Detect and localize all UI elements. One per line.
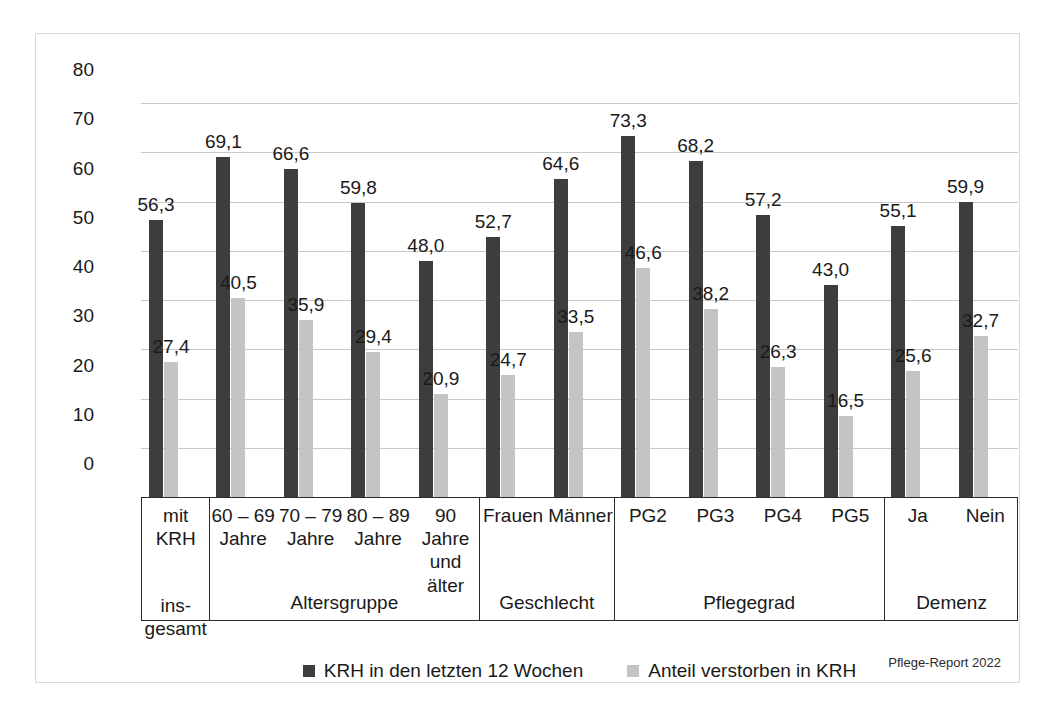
bar-value-label: 52,7 — [463, 212, 523, 231]
bar-value-label: 33,5 — [546, 307, 606, 326]
y-axis-tick-label: 50 — [38, 208, 94, 227]
bar-group: 68,238,2 — [681, 103, 748, 497]
bar-verstorben — [636, 268, 650, 498]
bar-group: 73,346,6 — [613, 103, 680, 497]
chart-legend: KRH in den letzten 12 WochenAnteil verst… — [141, 656, 1018, 686]
legend-label: KRH in den letzten 12 Wochen — [324, 660, 583, 682]
bar-value-label: 24,7 — [478, 350, 538, 369]
bar-group: 55,125,6 — [883, 103, 950, 497]
y-axis-tick-label: 40 — [38, 257, 94, 276]
bar-value-label: 35,9 — [276, 295, 336, 314]
bar-verstorben — [164, 362, 178, 497]
bar-verstorben — [906, 371, 920, 497]
y-axis-tick-label: 70 — [38, 109, 94, 128]
bar-value-label: 32,7 — [951, 311, 1011, 330]
bar-value-label: 59,8 — [328, 178, 388, 197]
bar-value-label: 73,3 — [598, 111, 658, 130]
x-axis-group-label: Geschlecht — [479, 591, 614, 614]
bar-verstorben — [501, 375, 515, 497]
bar-group: 56,327,4 — [141, 103, 208, 497]
bar-group: 57,226,3 — [748, 103, 815, 497]
bar-krh — [351, 203, 365, 498]
bar-group: 48,020,9 — [411, 103, 478, 497]
bar-verstorben — [299, 320, 313, 497]
y-axis-tick-label: 30 — [38, 306, 94, 325]
legend-label: Anteil verstorben in KRH — [648, 660, 856, 682]
bar-verstorben — [704, 309, 718, 497]
bar-verstorben — [839, 416, 853, 497]
x-axis-category-label: Ja — [884, 504, 951, 527]
bar-verstorben — [366, 352, 380, 497]
bar-krh — [689, 161, 703, 497]
y-axis-tick-label: 10 — [38, 405, 94, 424]
bar-value-label: 25,6 — [883, 346, 943, 365]
bar-verstorben — [974, 336, 988, 497]
x-axis-category-label: PG5 — [817, 504, 884, 527]
bar-value-label: 20,9 — [411, 369, 471, 388]
bar-value-label: 57,2 — [733, 190, 793, 209]
x-axis-group-label: ins-gesamt — [142, 594, 209, 640]
bar-krh — [216, 157, 230, 497]
x-axis-group-label: Pflegegrad — [614, 591, 884, 614]
y-axis-tick-label: 0 — [38, 454, 94, 473]
x-axis-category-label: 60 – 69Jahre — [209, 504, 276, 550]
x-axis-category-label: 70 – 79Jahre — [277, 504, 344, 550]
x-axis-category-label: Frauen — [479, 504, 546, 527]
legend-item-krh: KRH in den letzten 12 Wochen — [303, 660, 583, 682]
x-axis-category-label: PG2 — [614, 504, 681, 527]
bar-verstorben — [771, 367, 785, 497]
bar-group: 64,633,5 — [546, 103, 613, 497]
bar-krh — [284, 169, 298, 497]
y-axis-tick-label: 80 — [38, 60, 94, 79]
bars-layer: 56,327,469,140,566,635,959,829,448,020,9… — [141, 103, 1018, 497]
bar-verstorben — [231, 298, 245, 497]
legend-item-verstorben: Anteil verstorben in KRH — [627, 660, 856, 682]
x-axis-group-label: Demenz — [884, 591, 1019, 614]
bar-value-label: 64,6 — [531, 154, 591, 173]
bar-value-label: 16,5 — [816, 391, 876, 410]
x-axis-group-label: Altersgruppe — [209, 591, 479, 614]
legend-swatch-icon — [627, 665, 639, 677]
bar-value-label: 46,6 — [613, 243, 673, 262]
bar-value-label: 27,4 — [141, 337, 201, 356]
bar-krh — [554, 179, 568, 497]
y-axis-tick-label: 20 — [38, 356, 94, 375]
bar-value-label: 55,1 — [868, 201, 928, 220]
x-axis-category-label: Nein — [952, 504, 1019, 527]
bar-group: 43,016,5 — [816, 103, 883, 497]
x-axis-category-label: Männer — [547, 504, 614, 527]
bar-group: 59,829,4 — [343, 103, 410, 497]
x-axis-category-label: 80 – 89Jahre — [344, 504, 411, 550]
bar-value-label: 68,2 — [666, 136, 726, 155]
figure-frame: 01020304050607080 56,327,469,140,566,635… — [35, 33, 1020, 683]
bar-value-label: 26,3 — [748, 342, 808, 361]
bar-value-label: 43,0 — [801, 260, 861, 279]
bar-value-label: 66,6 — [261, 144, 321, 163]
plot-area: 56,327,469,140,566,635,959,829,448,020,9… — [141, 103, 1018, 497]
bar-value-label: 29,4 — [343, 327, 403, 346]
x-axis-category-label: mitKRH — [142, 504, 209, 550]
bar-group: 59,932,7 — [951, 103, 1018, 497]
bar-krh — [621, 136, 635, 497]
source-note: Pflege-Report 2022 — [888, 655, 1001, 670]
legend-swatch-icon — [303, 665, 315, 677]
bar-verstorben — [569, 332, 583, 497]
bar-value-label: 56,3 — [126, 195, 186, 214]
bar-verstorben — [434, 394, 448, 497]
bar-value-label: 59,9 — [936, 177, 996, 196]
x-axis-category-label: 90Jahreundälter — [412, 504, 479, 597]
bar-group: 66,635,9 — [276, 103, 343, 497]
bar-krh — [959, 202, 973, 497]
y-axis-tick-label: 60 — [38, 159, 94, 178]
bar-value-label: 48,0 — [396, 236, 456, 255]
bar-value-label: 69,1 — [193, 132, 253, 151]
x-axis-category-label: PG4 — [749, 504, 816, 527]
x-axis-table: mitKRH60 – 69Jahre70 – 79Jahre80 – 89Jah… — [141, 498, 1018, 621]
bar-value-label: 38,2 — [681, 284, 741, 303]
bar-value-label: 40,5 — [208, 273, 268, 292]
x-axis-category-label: PG3 — [682, 504, 749, 527]
bar-krh — [149, 220, 163, 497]
